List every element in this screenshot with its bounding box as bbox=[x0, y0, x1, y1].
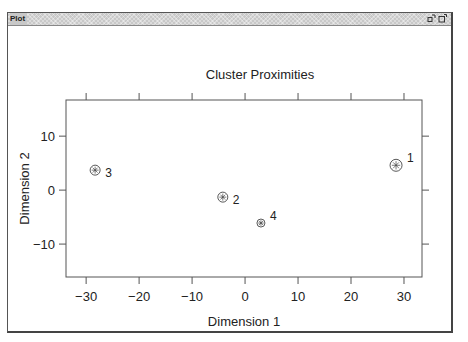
cluster-label-1: 1 bbox=[407, 151, 414, 165]
y-tick-label: 10 bbox=[41, 129, 55, 144]
cluster-label-2: 2 bbox=[233, 193, 240, 207]
x-tick-label: 0 bbox=[241, 289, 248, 304]
cluster-label-3: 3 bbox=[105, 166, 112, 180]
x-tick-label: 30 bbox=[397, 289, 411, 304]
cluster-label-4: 4 bbox=[270, 209, 277, 223]
x-tick-label: −30 bbox=[75, 289, 97, 304]
y-axis-label: Dimension 2 bbox=[17, 152, 32, 224]
scatter-chart: Cluster Proximities−30−20−100102030100−1… bbox=[0, 0, 468, 342]
chart-title: Cluster Proximities bbox=[206, 67, 315, 82]
plot-frame bbox=[66, 100, 422, 277]
x-tick-label: −10 bbox=[181, 289, 203, 304]
y-tick-label: −10 bbox=[33, 237, 55, 252]
x-axis-label: Dimension 1 bbox=[208, 314, 280, 329]
x-tick-label: 20 bbox=[344, 289, 358, 304]
y-tick-label: 0 bbox=[48, 183, 55, 198]
x-tick-label: −20 bbox=[128, 289, 150, 304]
x-tick-label: 10 bbox=[291, 289, 305, 304]
